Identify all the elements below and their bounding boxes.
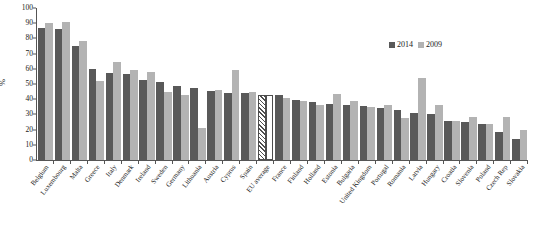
y-tick-mark xyxy=(33,53,36,54)
bar-group xyxy=(477,8,494,160)
bar-2014[interactable] xyxy=(377,108,385,160)
bar-2009[interactable] xyxy=(62,22,70,160)
dark-gray-swatch-icon xyxy=(389,42,395,48)
bar-2009[interactable] xyxy=(384,105,392,160)
y-tick-label: 60 xyxy=(26,65,34,73)
bar-group xyxy=(257,8,274,160)
bar-2009[interactable] xyxy=(350,101,358,160)
bars-container xyxy=(37,8,528,160)
bar-2014[interactable] xyxy=(38,28,46,160)
bar-2009[interactable] xyxy=(316,105,324,160)
bar-2014[interactable] xyxy=(292,100,300,160)
bar-2009[interactable] xyxy=(452,121,460,160)
bar-2014[interactable] xyxy=(123,74,131,160)
bar-2009[interactable] xyxy=(520,130,528,160)
bar-group xyxy=(444,8,461,160)
bar-2014[interactable] xyxy=(106,73,114,160)
plot-area: 0102030405060708090100 xyxy=(36,8,528,160)
legend-entry-2009[interactable]: 2009 xyxy=(418,40,442,49)
bar-group xyxy=(105,8,122,160)
bar-2014[interactable] xyxy=(326,104,334,160)
bar-2014[interactable] xyxy=(444,121,452,160)
bar-2009[interactable] xyxy=(486,124,494,160)
bar-2009[interactable] xyxy=(367,107,375,160)
y-tick-mark xyxy=(33,38,36,39)
bar-group xyxy=(122,8,139,160)
bar-2014[interactable] xyxy=(309,102,317,160)
bar-2014[interactable] xyxy=(478,124,486,160)
bar-2014[interactable] xyxy=(156,82,164,160)
legend-label-2014: 2014 xyxy=(397,40,413,49)
y-tick-label: 30 xyxy=(26,111,34,119)
bar-2014[interactable] xyxy=(190,88,198,160)
bar-2009[interactable] xyxy=(96,81,104,160)
bar-2009[interactable] xyxy=(503,117,511,160)
bar-2009[interactable] xyxy=(215,90,223,160)
bar-2014[interactable] xyxy=(173,86,181,160)
bar-2014[interactable] xyxy=(427,114,435,160)
bar-2014[interactable] xyxy=(394,110,402,160)
bar-2009[interactable] xyxy=(418,78,426,160)
bar-group xyxy=(342,8,359,160)
bar-2014[interactable] xyxy=(224,93,232,160)
bar-2009[interactable] xyxy=(401,118,409,160)
bar-2014[interactable] xyxy=(139,80,147,160)
bar-2009[interactable] xyxy=(249,92,257,160)
bar-2014[interactable] xyxy=(275,95,283,160)
bar-2014[interactable] xyxy=(461,122,469,160)
bar-2009[interactable] xyxy=(300,101,308,160)
bar-group xyxy=(71,8,88,160)
y-tick-label: 100 xyxy=(22,4,33,12)
bar-2009[interactable] xyxy=(113,62,121,160)
bar-2009[interactable] xyxy=(435,105,443,160)
bar-2009[interactable] xyxy=(181,95,189,160)
bar-2009[interactable] xyxy=(147,72,155,160)
bar-2009[interactable] xyxy=(130,70,138,160)
bar-group xyxy=(460,8,477,160)
bar-group xyxy=(427,8,444,160)
bar-group xyxy=(240,8,257,160)
y-tick-label: 10 xyxy=(26,141,34,149)
y-tick-label: 50 xyxy=(26,80,34,88)
y-tick-label: 90 xyxy=(26,19,34,27)
bar-2014[interactable] xyxy=(410,113,418,160)
bar-group xyxy=(291,8,308,160)
bar-2014[interactable] xyxy=(258,95,266,160)
bar-2014[interactable] xyxy=(89,69,97,160)
bar-2014[interactable] xyxy=(495,132,503,160)
bar-group xyxy=(325,8,342,160)
bar-2009[interactable] xyxy=(198,128,206,160)
bar-2014[interactable] xyxy=(241,93,249,160)
x-label-cell: Greece xyxy=(88,164,105,246)
bar-2009[interactable] xyxy=(79,41,87,160)
bar-group xyxy=(88,8,105,160)
y-tick-label: 70 xyxy=(26,50,34,58)
bar-2014[interactable] xyxy=(512,139,520,160)
bar-2009[interactable] xyxy=(164,92,172,160)
legend-label-2009: 2009 xyxy=(426,40,442,49)
y-tick-mark xyxy=(33,8,36,9)
legend-entry-2014[interactable]: 2014 xyxy=(389,40,413,49)
bar-2009[interactable] xyxy=(232,70,240,160)
bar-2014[interactable] xyxy=(72,46,80,160)
bar-2009[interactable] xyxy=(469,117,477,160)
bar-2009[interactable] xyxy=(283,98,291,160)
bar-2009[interactable] xyxy=(333,94,341,160)
y-tick-label: 40 xyxy=(26,95,34,103)
chart-legend: 2014 2009 xyxy=(389,40,442,49)
bar-group xyxy=(410,8,427,160)
bar-group xyxy=(156,8,173,160)
bar-2009[interactable] xyxy=(45,23,53,160)
bar-group xyxy=(223,8,240,160)
bar-group xyxy=(511,8,528,160)
bar-2009[interactable] xyxy=(266,95,274,160)
bar-group xyxy=(37,8,54,160)
bar-2014[interactable] xyxy=(343,105,351,160)
y-tick-mark xyxy=(33,99,36,100)
bar-2014[interactable] xyxy=(207,91,215,160)
bar-group xyxy=(189,8,206,160)
bar-2014[interactable] xyxy=(360,106,368,160)
bar-2014[interactable] xyxy=(55,29,63,160)
y-tick-mark xyxy=(33,68,36,69)
x-label-cell: Slovakia xyxy=(512,164,529,246)
